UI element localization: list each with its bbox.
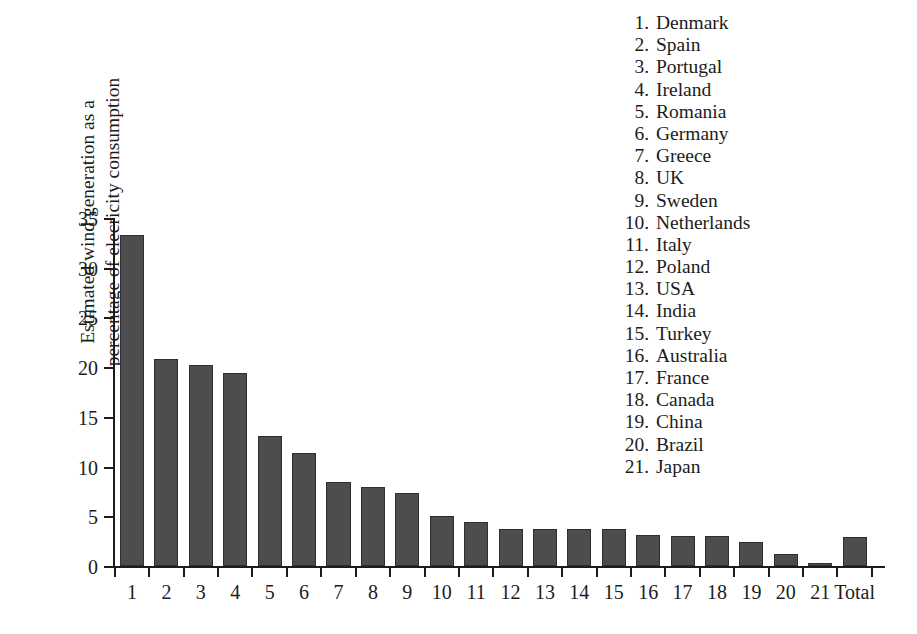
y-axis-line bbox=[113, 218, 115, 567]
x-axis-tick bbox=[733, 567, 735, 577]
x-axis-tick bbox=[492, 567, 494, 577]
x-axis-tick-label: 8 bbox=[368, 582, 378, 602]
legend-item-number: 6. bbox=[615, 123, 649, 145]
x-axis-tick-label: 15 bbox=[604, 582, 624, 602]
bar bbox=[739, 542, 763, 566]
legend-item: 1.Denmark bbox=[615, 12, 905, 34]
y-axis-tick: 35 bbox=[104, 218, 113, 220]
x-axis-tick bbox=[355, 567, 357, 577]
x-axis-tick bbox=[664, 567, 666, 577]
legend-item-label: Ireland bbox=[656, 79, 711, 101]
bar bbox=[602, 529, 626, 566]
bar bbox=[189, 365, 213, 566]
x-axis-tick bbox=[836, 567, 838, 577]
x-axis-tick bbox=[527, 567, 529, 577]
legend-item-number: 4. bbox=[615, 79, 649, 101]
x-axis-tick bbox=[561, 567, 563, 577]
legend-item-number: 9. bbox=[615, 190, 649, 212]
x-axis-tick bbox=[114, 567, 116, 577]
bar bbox=[292, 453, 316, 566]
legend-item-label: Romania bbox=[656, 101, 726, 123]
legend-item-number: 2. bbox=[615, 34, 649, 56]
legend-item-number: 3. bbox=[615, 56, 649, 78]
bar bbox=[636, 535, 660, 566]
x-axis-tick bbox=[286, 567, 288, 577]
x-axis-tick-label: 10 bbox=[432, 582, 452, 602]
x-axis-tick bbox=[630, 567, 632, 577]
bar bbox=[671, 536, 695, 566]
legend-item: 2.Spain bbox=[615, 34, 905, 56]
bar bbox=[705, 536, 729, 566]
legend-item: 9.Sweden bbox=[615, 190, 905, 212]
x-axis-tick bbox=[699, 567, 701, 577]
y-axis-tick-label: 30 bbox=[78, 258, 98, 278]
legend-item: 8.UK bbox=[615, 167, 905, 189]
legend-item: 7.Greece bbox=[615, 145, 905, 167]
y-axis-tick: 5 bbox=[104, 516, 113, 518]
bar bbox=[430, 516, 454, 566]
legend-item-number: 7. bbox=[615, 145, 649, 167]
y-axis-tick: 10 bbox=[104, 467, 113, 469]
bar bbox=[326, 482, 350, 567]
y-axis-tick: 25 bbox=[104, 317, 113, 319]
x-axis-tick bbox=[320, 567, 322, 577]
y-axis-tick-label: 5 bbox=[88, 507, 98, 527]
bar bbox=[808, 563, 832, 566]
bar bbox=[223, 373, 247, 566]
y-axis-tick-label: 35 bbox=[78, 209, 98, 229]
bar bbox=[395, 493, 419, 566]
x-axis-tick bbox=[802, 567, 804, 577]
x-axis-tick bbox=[217, 567, 219, 577]
x-axis-tick-label: 2 bbox=[161, 582, 171, 602]
legend-item: 6.Germany bbox=[615, 123, 905, 145]
x-axis-tick-label: 13 bbox=[535, 582, 555, 602]
legend-item-number: 5. bbox=[615, 101, 649, 123]
bar bbox=[361, 487, 385, 566]
x-axis-tick bbox=[148, 567, 150, 577]
x-axis-tick bbox=[389, 567, 391, 577]
bar bbox=[567, 529, 591, 566]
bar bbox=[533, 529, 557, 566]
x-axis-tick-label: 21 bbox=[810, 582, 830, 602]
y-axis-tick: 0 bbox=[104, 566, 113, 568]
bar bbox=[499, 529, 523, 566]
x-axis-tick-label: 4 bbox=[230, 582, 240, 602]
legend-item-label: UK bbox=[656, 167, 684, 189]
x-axis-tick bbox=[768, 567, 770, 577]
x-axis-tick bbox=[183, 567, 185, 577]
legend-item-label: Portugal bbox=[656, 56, 722, 78]
x-axis-tick-label: Total bbox=[834, 582, 875, 602]
x-axis-tick bbox=[458, 567, 460, 577]
y-axis-tick-label: 25 bbox=[78, 308, 98, 328]
x-axis-tick bbox=[596, 567, 598, 577]
legend-item: 3.Portugal bbox=[615, 56, 905, 78]
legend-item-number: 8. bbox=[615, 167, 649, 189]
x-axis-tick-label: 3 bbox=[196, 582, 206, 602]
y-axis-tick: 20 bbox=[104, 367, 113, 369]
y-axis-tick: 15 bbox=[104, 417, 113, 419]
x-axis-tick-label: 7 bbox=[333, 582, 343, 602]
x-axis-tick-label: 5 bbox=[265, 582, 275, 602]
x-axis-tick-label: 9 bbox=[402, 582, 412, 602]
x-axis-tick-label: 20 bbox=[776, 582, 796, 602]
y-axis-tick-label: 10 bbox=[78, 457, 98, 477]
bar bbox=[464, 522, 488, 566]
legend-item-number: 1. bbox=[615, 12, 649, 34]
x-axis-tick-label: 12 bbox=[501, 582, 521, 602]
bar bbox=[120, 235, 144, 566]
bar bbox=[154, 359, 178, 566]
x-axis-tick-label: 19 bbox=[741, 582, 761, 602]
bar bbox=[258, 436, 282, 566]
bar bbox=[843, 537, 867, 566]
legend-item: 5.Romania bbox=[615, 101, 905, 123]
legend-item-label: Denmark bbox=[656, 12, 729, 34]
y-axis-tick-label: 15 bbox=[78, 407, 98, 427]
legend-item: 4.Ireland bbox=[615, 79, 905, 101]
x-axis-tick-label: 6 bbox=[299, 582, 309, 602]
y-axis-tick-label: 20 bbox=[78, 358, 98, 378]
legend-item-label: Germany bbox=[656, 123, 729, 145]
legend-item-label: Sweden bbox=[656, 190, 718, 212]
bar-chart-plot-area: 05101520253035 1234567891011121314151617… bbox=[113, 218, 885, 566]
x-axis-tick-label: 1 bbox=[127, 582, 137, 602]
x-axis-tick bbox=[251, 567, 253, 577]
